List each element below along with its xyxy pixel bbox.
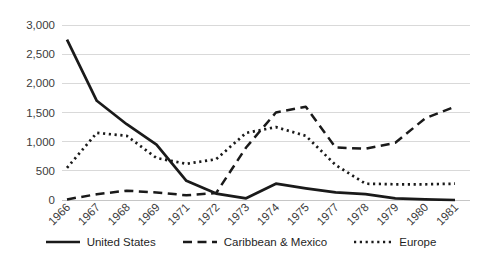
x-axis-tick-label: 1968 xyxy=(106,201,133,228)
legend-label-europe: Europe xyxy=(399,236,436,248)
chart-legend: United States Caribbean & Mexico Europe xyxy=(0,236,481,248)
x-axis-tick-label: 1977 xyxy=(314,201,341,228)
x-axis-tick-label: 1980 xyxy=(404,201,431,228)
x-axis-tick-label: 1967 xyxy=(76,201,103,228)
y-axis-tick-label: 2,000 xyxy=(26,77,55,89)
legend-item-europe: Europe xyxy=(353,236,436,248)
x-axis-tick-label: 1975 xyxy=(285,201,312,228)
x-axis-tick-label: 1972 xyxy=(195,201,222,228)
y-axis-tick-label: 500 xyxy=(36,165,55,177)
series-line-europe xyxy=(67,127,455,184)
legend-item-caribbean-mexico: Caribbean & Mexico xyxy=(182,236,328,248)
x-axis-tick-label: 1978 xyxy=(344,201,371,228)
x-axis-tick-label: 1971 xyxy=(165,201,192,228)
y-axis-tick-label: 1,500 xyxy=(26,107,55,119)
x-axis-tick-label: 1979 xyxy=(374,201,401,228)
chart-canvas: 05001,0001,5002,0002,5003,00019661967196… xyxy=(0,0,481,267)
y-axis-tick-label: 2,500 xyxy=(26,48,55,60)
x-axis-tick-label: 1974 xyxy=(255,201,282,228)
y-axis-tick-label: 0 xyxy=(49,194,55,206)
x-axis-tick-label: 1969 xyxy=(135,201,162,228)
series-line-united-states xyxy=(67,40,455,200)
dashed-line-swatch xyxy=(182,239,218,245)
legend-label-caribbean-mexico: Caribbean & Mexico xyxy=(224,236,328,248)
dotted-line-swatch xyxy=(353,239,393,245)
x-axis-tick-label: 1973 xyxy=(225,201,252,228)
legend-item-united-states: United States xyxy=(45,236,156,248)
y-axis-tick-label: 1,000 xyxy=(26,136,55,148)
legend-label-united-states: United States xyxy=(87,236,156,248)
solid-line-swatch xyxy=(45,239,81,245)
x-axis-tick-label: 1981 xyxy=(434,201,461,228)
line-chart: 05001,0001,5002,0002,5003,00019661967196… xyxy=(0,0,481,267)
y-axis-tick-label: 3,000 xyxy=(26,19,55,31)
